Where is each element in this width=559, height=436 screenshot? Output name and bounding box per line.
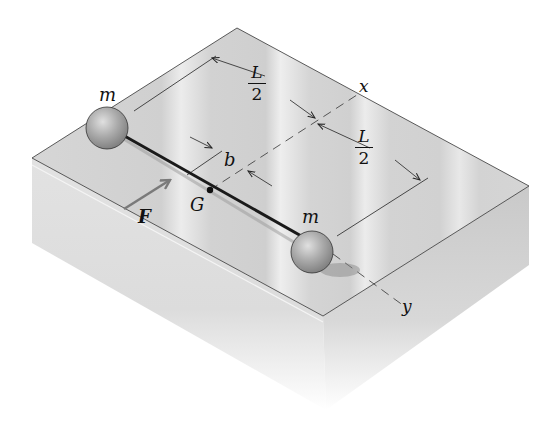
label-half-length-top: L 2 [246, 64, 268, 103]
label-axis-y: y [402, 298, 412, 315]
mass-left [86, 107, 128, 149]
label-center-of-mass-G: G [190, 196, 204, 214]
fraction-denominator: 2 [246, 86, 268, 103]
dumbbell-on-table-diagram: m m b G F x y L 2 L 2 [0, 0, 559, 436]
label-mass-left: m [99, 86, 116, 104]
label-mass-right: m [302, 208, 319, 226]
label-force-F: F [138, 208, 151, 226]
label-half-length-bottom: L 2 [353, 128, 375, 167]
fraction-numerator: L [246, 64, 268, 81]
diagram-canvas [0, 0, 559, 436]
fraction-numerator: L [353, 128, 375, 145]
fraction-denominator: 2 [353, 150, 375, 167]
mass-right [291, 231, 333, 273]
label-offset-b: b [224, 151, 236, 169]
label-axis-x: x [359, 78, 369, 95]
center-of-mass-point [207, 187, 213, 193]
